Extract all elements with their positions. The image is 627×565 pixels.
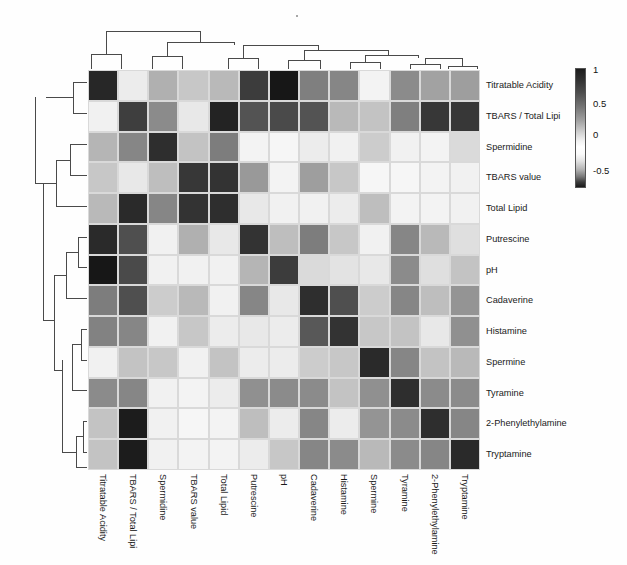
column-label-12: Tryptamine [450,472,480,564]
heatmap-cell [329,132,359,163]
heatmap-cell [329,285,359,316]
column-dendrogram-segment [448,66,477,67]
heatmap-cell [450,285,480,316]
heatmap-cell [420,162,450,193]
row-dendrogram-segment [78,237,87,238]
heatmap-cell [420,101,450,132]
column-dendrogram-segment [234,42,235,45]
heatmap-cell [390,162,420,193]
heatmap-cell [88,408,118,439]
heatmap-cell [390,285,420,316]
colorbar-tick-0: 1 [593,64,598,75]
row-dendrogram-segment [43,320,54,321]
heatmap-cell [269,101,299,132]
heatmap-cell [88,162,118,193]
heatmap-cell [148,408,178,439]
column-dendrogram-segment [365,55,418,56]
column-dendrogram-segment [106,31,107,54]
colorbar-tick-1: 0.5 [593,98,606,109]
heatmap-cell [209,285,239,316]
heatmap-cell [88,70,118,101]
heatmap-cell [118,70,148,101]
heatmap-cell [269,378,299,409]
column-dendrogram-segment [462,62,463,66]
heatmap-cell [390,347,420,378]
row-dendrogram-segment [54,275,55,370]
column-label-6: pH [269,472,299,564]
row-dendrogram-segment [78,237,79,267]
row-dendrogram-segment [76,467,87,468]
heatmap-cell [359,162,389,193]
heatmap-cell [209,255,239,286]
heatmap-grid [88,70,480,470]
column-label-group: Titratable AcidityTBARS / Total LipiSper… [88,472,480,565]
heatmap-cell [178,224,208,255]
heatmap-cell [118,285,148,316]
row-dendrogram-segment [62,360,63,452]
heatmap-cell [269,316,299,347]
row-dendrogram-segment [46,97,73,98]
heatmap-cell [88,347,118,378]
heatmap-cell [329,70,359,101]
row-dendrogram-segment [56,206,87,207]
heatmap-cell [359,224,389,255]
heatmap-cell [359,347,389,378]
heatmap-cell [148,70,178,101]
heatmap-cell [88,316,118,347]
column-dendrogram-segment [304,50,305,60]
column-label-1: TBARS / Total Lipi [118,472,148,564]
heatmap-cell [209,316,239,347]
row-dendrogram [26,70,88,470]
heatmap-figure: Titratable AcidityTBARS / Total LipiSper… [0,0,627,565]
heatmap-cell [178,285,208,316]
heatmap-cell [148,316,178,347]
heatmap-cell [299,347,329,378]
row-dendrogram-segment [35,183,56,184]
column-dendrogram-segment [288,60,289,69]
column-label-8: Histamine [329,472,359,564]
heatmap-cell [148,255,178,286]
heatmap-cell [299,255,329,286]
row-label-9: Spermine [486,347,525,378]
row-dendrogram-segment [73,82,87,83]
column-dendrogram-segment [425,58,462,59]
heatmap-cell [269,193,299,224]
heatmap-cell [299,162,329,193]
heatmap-cell [390,70,420,101]
heatmap-cell [88,224,118,255]
column-dendrogram-segment [243,45,318,46]
row-label-10: Tyramine [486,378,524,409]
heatmap-cell [148,224,178,255]
column-label-0: Titratable Acidity [88,472,118,564]
row-dendrogram-segment [83,452,87,453]
heatmap-cell [450,347,480,378]
heatmap-cell [299,70,329,101]
heatmap-cell [420,316,450,347]
heatmap-cell [390,439,420,470]
heatmap-cell [299,439,329,470]
heatmap-cell [359,408,389,439]
heatmap-cell [88,193,118,224]
column-dendrogram-segment [258,58,259,69]
row-dendrogram-segment [78,267,87,268]
column-label-text: TBARS value [189,474,199,529]
heatmap-cell [359,70,389,101]
heatmap-cell [239,255,269,286]
heatmap-cell [299,285,329,316]
heatmap-cell [390,132,420,163]
heatmap-cell [209,224,239,255]
heatmap-cell [359,193,389,224]
heatmap-cell [239,70,269,101]
heatmap-cell [88,378,118,409]
column-label-text: Spermine [369,474,379,513]
column-label-3: TBARS value [178,472,208,564]
heatmap-cell [299,224,329,255]
column-dendrogram-segment [91,54,121,55]
column-label-text: Tyramine [400,474,410,512]
heatmap-cell [239,101,269,132]
heatmap-cell [329,439,359,470]
heatmap-cell [450,255,480,286]
heatmap-cell [450,70,480,101]
heatmap-cell [239,193,269,224]
row-label-7: Cadaverine [486,285,533,316]
